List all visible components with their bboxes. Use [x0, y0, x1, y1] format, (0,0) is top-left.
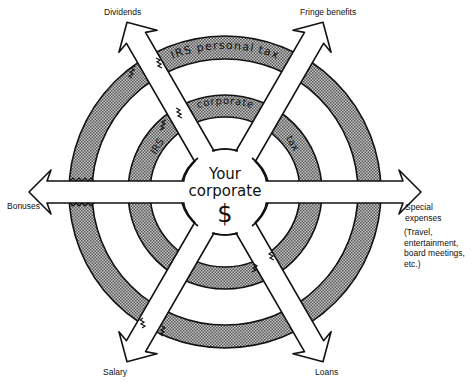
center-label-your: Your — [208, 165, 242, 183]
label-salary: Salary — [103, 367, 127, 377]
detail-line: etc.) — [404, 259, 465, 270]
dollar-sign-icon: $ — [217, 200, 232, 228]
label-loans: Loans — [315, 367, 338, 377]
label-bonuses: Bonuses — [7, 201, 40, 211]
detail-line: board meetings, — [404, 248, 465, 259]
label-special-expenses: Special expenses — [405, 202, 445, 224]
label-dividends: Dividends — [104, 7, 141, 17]
detail-line: entertainment, — [404, 238, 465, 249]
center-label-corporate: corporate — [189, 182, 262, 200]
corporate-dollar-diagram: IRS personal tax corporate IRS tax Your … — [0, 0, 473, 385]
detail-line: (Travel, — [404, 227, 465, 238]
label-special-expenses-details: (Travel, entertainment, board meetings, … — [404, 227, 465, 269]
label-fringe-benefits: Fringe benefits — [300, 7, 356, 17]
